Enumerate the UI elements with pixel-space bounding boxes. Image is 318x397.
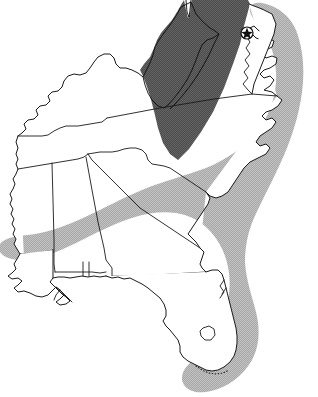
florida-panhandle-coast	[106, 270, 237, 371]
georgia-coastline	[200, 248, 206, 272]
gulf-coast-outline	[53, 276, 106, 278]
alabama-florida-border	[55, 272, 106, 273]
tennessee-southern-border	[18, 154, 88, 169]
map-canvas	[0, 0, 318, 397]
range-shade-area	[140, 0, 250, 160]
map-figure: Southeastern United States Shaded distri…	[0, 0, 318, 397]
mobile-bay	[83, 262, 89, 276]
kentucky-outline	[18, 54, 143, 136]
marker-layer	[241, 27, 253, 39]
capital-star-marker[interactable]	[241, 27, 253, 39]
range-shade-layer	[140, 0, 250, 160]
